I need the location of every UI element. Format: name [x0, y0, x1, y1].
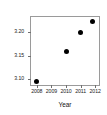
- y-axis-tick: 3.10: [28, 79, 31, 80]
- x-axis-tick-label: 2010: [60, 88, 71, 94]
- x-axis-title: Year: [30, 101, 100, 109]
- x-axis-tick-label: 2008: [31, 88, 42, 94]
- y-axis-tick-label: 3.10: [14, 75, 24, 81]
- x-axis-tick-label: 2011: [75, 88, 86, 94]
- data-point: [78, 30, 83, 35]
- y-axis-tick: 3.15: [28, 56, 31, 57]
- plot-area: 3.203.153.1020082009201020112012: [30, 16, 100, 86]
- y-axis-tick: 3.20: [28, 32, 31, 33]
- y-axis-tick-label: 3.20: [14, 28, 24, 34]
- scatter-plot-figure: 3.203.153.1020082009201020112012 log(Deb…: [0, 0, 107, 115]
- x-axis-tick-label: 2012: [90, 88, 101, 94]
- y-axis-tick-label: 3.15: [14, 52, 24, 58]
- data-point: [90, 19, 95, 24]
- data-point: [64, 49, 69, 54]
- x-axis-tick-label: 2009: [46, 88, 57, 94]
- data-point: [34, 79, 39, 84]
